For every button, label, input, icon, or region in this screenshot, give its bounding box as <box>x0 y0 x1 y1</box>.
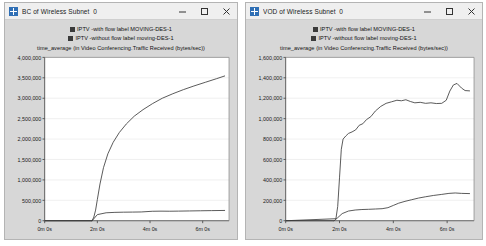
chart-canvas-bc: 0500,0001,000,0001,500,0002,000,0002,500… <box>9 53 233 235</box>
svg-text:1,500,000: 1,500,000 <box>18 156 42 162</box>
svg-text:4m 0s: 4m 0s <box>386 225 401 231</box>
maximize-icon[interactable] <box>193 3 215 19</box>
window-vod[interactable]: VOD of Wireless Subnet_0 IPTV -with flow… <box>245 2 483 240</box>
svg-text:6m 0s: 6m 0s <box>440 225 455 231</box>
chart-subtitle-bc: time_average (in Video Conferencing.Traf… <box>9 45 233 51</box>
svg-text:1,000,000: 1,000,000 <box>259 116 283 122</box>
opnet-window-icon <box>9 7 18 16</box>
window-controls-vod <box>416 3 482 19</box>
svg-text:4m 0s: 4m 0s <box>143 225 158 231</box>
chart-plot-vod: 0200,000400,000600,000800,0001,000,0001,… <box>250 53 478 235</box>
legend-item[interactable]: IPTV -with flow label MOVING-DES-1 <box>313 25 415 33</box>
svg-text:1,000,000: 1,000,000 <box>18 177 42 183</box>
svg-text:2,500,000: 2,500,000 <box>18 116 42 122</box>
window-body-bc: IPTV -with flow label MOVING-DES-1 IPTV … <box>5 20 237 239</box>
close-icon[interactable] <box>215 3 237 19</box>
svg-text:0: 0 <box>38 218 41 224</box>
svg-text:400,000: 400,000 <box>263 177 282 183</box>
svg-text:0m 0s: 0m 0s <box>278 225 293 231</box>
svg-text:1,400,000: 1,400,000 <box>259 75 283 81</box>
legend-swatch-icon <box>68 36 73 41</box>
chart-plot-bc: 0500,0001,000,0001,500,0002,000,0002,500… <box>9 53 233 235</box>
svg-text:1,200,000: 1,200,000 <box>259 95 283 101</box>
legend-item-label: IPTV -with flow label MOVING-DES-1 <box>77 25 172 33</box>
titlebar-vod[interactable]: VOD of Wireless Subnet_0 <box>246 3 482 20</box>
legend-swatch-icon <box>311 36 316 41</box>
svg-text:500,000: 500,000 <box>22 197 41 203</box>
maximize-icon[interactable] <box>438 3 460 19</box>
opnet-window-icon <box>250 7 259 16</box>
chart-legend-bc: IPTV -with flow label MOVING-DES-1 IPTV … <box>9 25 233 43</box>
svg-text:800,000: 800,000 <box>263 136 282 142</box>
titlebar-bc[interactable]: BC of Wireless Subnet_0 <box>5 3 237 20</box>
close-icon[interactable] <box>460 3 482 19</box>
chart-legend-vod: IPTV -with flow label MOVING-DES-1 IPTV … <box>250 25 478 43</box>
legend-item-label: IPTV -without flow label moving-DES-1 <box>318 34 416 42</box>
window-controls-bc <box>171 3 237 19</box>
svg-text:2m 0s: 2m 0s <box>332 225 347 231</box>
legend-item[interactable]: IPTV -without flow label moving-DES-1 <box>68 34 173 42</box>
legend-item-label: IPTV -with flow label MOVING-DES-1 <box>320 25 415 33</box>
svg-text:6m 0s: 6m 0s <box>195 225 210 231</box>
legend-swatch-icon <box>313 27 318 32</box>
legend-item-label: IPTV -without flow label moving-DES-1 <box>75 34 173 42</box>
svg-text:2,000,000: 2,000,000 <box>18 136 42 142</box>
window-title-vod: VOD of Wireless Subnet_0 <box>263 8 416 15</box>
svg-text:3,000,000: 3,000,000 <box>18 95 42 101</box>
window-body-vod: IPTV -with flow label MOVING-DES-1 IPTV … <box>246 20 482 239</box>
chart-canvas-vod: 0200,000400,000600,000800,0001,000,0001,… <box>250 53 478 235</box>
svg-text:3,500,000: 3,500,000 <box>18 75 42 81</box>
minimize-icon[interactable] <box>416 3 438 19</box>
chart-subtitle-vod: time_average (in Video Conferencing.Traf… <box>250 45 478 51</box>
legend-item[interactable]: IPTV -with flow label MOVING-DES-1 <box>70 25 172 33</box>
svg-text:0m 0s: 0m 0s <box>37 225 52 231</box>
window-bc[interactable]: BC of Wireless Subnet_0 IPTV -with flow … <box>4 2 238 240</box>
svg-text:4,000,000: 4,000,000 <box>18 54 42 60</box>
svg-text:2m 0s: 2m 0s <box>90 225 105 231</box>
legend-swatch-icon <box>70 27 75 32</box>
minimize-icon[interactable] <box>171 3 193 19</box>
svg-text:0: 0 <box>279 218 282 224</box>
window-title-bc: BC of Wireless Subnet_0 <box>22 8 171 15</box>
svg-text:200,000: 200,000 <box>263 197 282 203</box>
svg-text:600,000: 600,000 <box>263 156 282 162</box>
svg-text:1,600,000: 1,600,000 <box>259 54 283 60</box>
legend-item[interactable]: IPTV -without flow label moving-DES-1 <box>311 34 416 42</box>
